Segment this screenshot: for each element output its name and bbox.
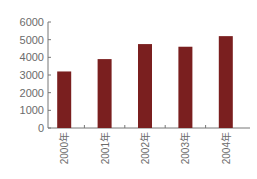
x-tick-label: 2004年	[220, 132, 232, 164]
bar-chart: 0100020003000400050006000 2000年2001年2002…	[0, 0, 257, 179]
y-tick-label: 4000	[20, 51, 44, 63]
y-tick-label: 0	[38, 122, 44, 134]
y-tick-label: 6000	[20, 16, 44, 28]
bar	[138, 44, 152, 128]
y-tick-label: 3000	[20, 69, 44, 81]
y-axis: 0100020003000400050006000	[20, 16, 51, 134]
x-tick-label: 2003年	[179, 132, 191, 164]
x-tick-label: 2000年	[58, 132, 70, 164]
x-axis: 2000年2001年2002年2003年2004年	[48, 125, 250, 164]
bar	[178, 47, 192, 128]
bar	[98, 59, 112, 128]
y-tick-label: 2000	[20, 87, 44, 99]
y-tick-label: 5000	[20, 34, 44, 46]
bar	[219, 36, 233, 128]
bars	[57, 36, 233, 128]
x-tick-label: 2002年	[139, 132, 151, 164]
bar	[57, 71, 71, 128]
y-tick-label: 1000	[20, 104, 44, 116]
x-tick-label: 2001年	[99, 132, 111, 164]
